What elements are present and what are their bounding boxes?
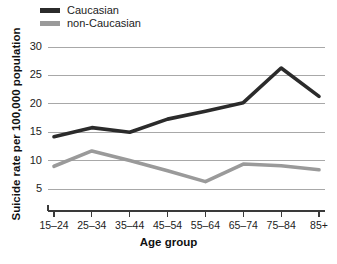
x-tick-label-3: 45–54 xyxy=(153,219,182,231)
chart-figure: Caucasian non-Caucasian 51015202530 15–2… xyxy=(0,0,337,264)
x-tick-label-2: 35–44 xyxy=(115,219,144,231)
x-tick-label-1: 25–34 xyxy=(77,219,106,231)
x-axis-title: Age group xyxy=(0,236,337,248)
x-tick-labels: 15–2425–3435–4445–5455–6465–7475–8485+ xyxy=(0,0,337,264)
x-tick-label-7: 85+ xyxy=(310,219,328,231)
cut-off-caption xyxy=(0,256,337,264)
x-tick-label-5: 65–74 xyxy=(229,219,258,231)
x-tick-label-0: 15–24 xyxy=(39,219,68,231)
y-axis-title: Suicide rate per 100,000 population xyxy=(10,24,22,224)
x-tick-label-6: 75–84 xyxy=(267,219,296,231)
x-tick-label-4: 55–64 xyxy=(191,219,220,231)
